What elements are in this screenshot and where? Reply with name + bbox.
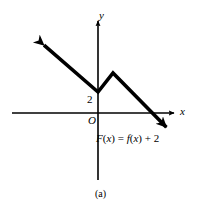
function-equation-label: F(x) = f(x) + 2 [96,133,159,144]
y-axis-label: y [99,10,104,21]
plus-two-term: + 2 [142,132,159,144]
function-curve [44,45,166,127]
y-intercept-label: 2 [87,94,93,105]
figure-caption: (a) [0,188,201,199]
figure-container: y x O 2 F(x) = f(x) + 2 (a) [0,0,201,209]
graph-plot [0,0,201,209]
function-name-F: F [96,132,103,144]
equals-sign: = [115,132,127,144]
origin-label: O [88,115,96,126]
x-axis-label: x [180,106,185,117]
